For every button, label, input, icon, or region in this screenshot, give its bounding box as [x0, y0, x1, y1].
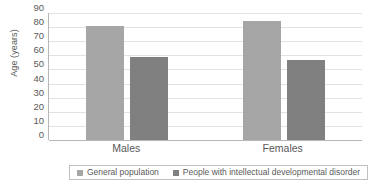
y-axis-tick-label: 0: [18, 130, 44, 140]
legend-item[interactable]: General population: [77, 168, 159, 177]
legend-swatch-icon: [173, 170, 179, 176]
y-axis-tick-label: 20: [18, 102, 44, 112]
legend-label: General population: [87, 168, 159, 177]
y-axis-tick-label: 60: [18, 45, 44, 55]
y-axis-tick-label: 80: [18, 17, 44, 27]
y-axis-tick-label: 50: [18, 59, 44, 69]
chart-legend: General populationPeople with intellectu…: [69, 165, 368, 180]
y-axis-tick-label: 40: [18, 74, 44, 84]
legend-label: People with intellectual developmental d…: [183, 168, 360, 177]
bar[interactable]: [287, 60, 325, 140]
legend-item[interactable]: People with intellectual developmental d…: [173, 168, 360, 177]
x-axis-category-label: Males: [48, 142, 205, 154]
x-axis-category-label: Females: [205, 142, 362, 154]
y-axis-tick-label: 30: [18, 88, 44, 98]
y-axis-tick-labels: 9080706050403020100: [18, 8, 44, 140]
y-axis-tick-label: 10: [18, 116, 44, 126]
bar-group: [49, 13, 206, 140]
bar-chart: Age (years) 9080706050403020100 MalesFem…: [0, 0, 370, 187]
bar[interactable]: [130, 57, 168, 140]
bar[interactable]: [86, 26, 124, 140]
y-axis-tick-label: 90: [18, 3, 44, 13]
plot-area: [48, 13, 362, 140]
bar-group: [206, 13, 363, 140]
y-axis-tick-label: 70: [18, 31, 44, 41]
bar[interactable]: [243, 21, 281, 140]
legend-swatch-icon: [77, 170, 83, 176]
x-axis-category-labels: MalesFemales: [48, 142, 362, 158]
bars-layer: [49, 13, 362, 140]
axis-baseline: [49, 140, 362, 141]
